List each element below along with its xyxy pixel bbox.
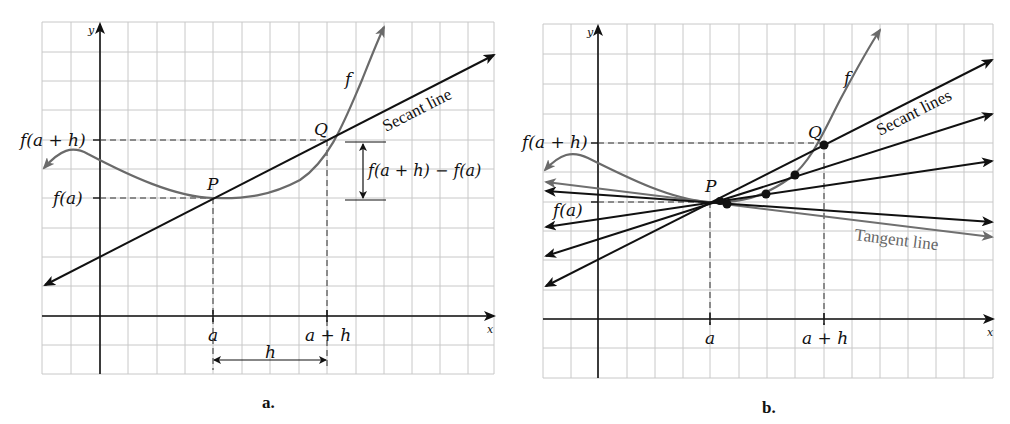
function-curve-a (44, 27, 384, 198)
y-tick-label-fah-a: f(a + h) (18, 130, 86, 150)
curve-label-a: f (343, 69, 354, 89)
point-dot (762, 190, 771, 199)
guide-lines-b (598, 143, 824, 325)
x-tick-label-a-b: a (705, 328, 715, 348)
grid-a (42, 22, 494, 374)
x-axis-label-a: x (487, 323, 494, 336)
grid-b (543, 24, 993, 378)
caption-a: a. (262, 393, 275, 412)
y-tick-label-fa-a: f(a) (51, 188, 83, 208)
secant-tangent-figure: y x f(a + h) f(a) P Q f a a (0, 0, 1010, 424)
point-q-label-a: Q (314, 119, 328, 139)
y-tick-label-fah-b: f(a + h) (520, 132, 588, 152)
difference-label: f(a + h) − f(a) (367, 161, 481, 180)
point-p-label-b: P (704, 176, 717, 196)
secant-lines-label-b: Secant lines (873, 86, 954, 140)
point-dot (716, 197, 724, 205)
point-dot (791, 171, 800, 180)
y-axis-label-a: y (87, 24, 95, 37)
y-tick-label-fa-b: f(a) (551, 200, 583, 220)
x-tick-label-ah-a: a + h (305, 325, 351, 345)
y-axis-label-b: y (586, 26, 594, 39)
x-tick-label-ah-b: a + h (802, 328, 848, 348)
point-q-label-b: Q (808, 122, 822, 142)
x-tick-label-a-a: a (208, 325, 218, 345)
point-p-label-a: P (206, 174, 219, 194)
h-label: h (265, 342, 276, 362)
x-axis-label-b: x (987, 326, 994, 339)
panel-b: y x f (520, 24, 994, 417)
caption-b: b. (762, 398, 776, 417)
panel-a: y x f(a + h) f(a) P Q f a a (18, 22, 494, 412)
